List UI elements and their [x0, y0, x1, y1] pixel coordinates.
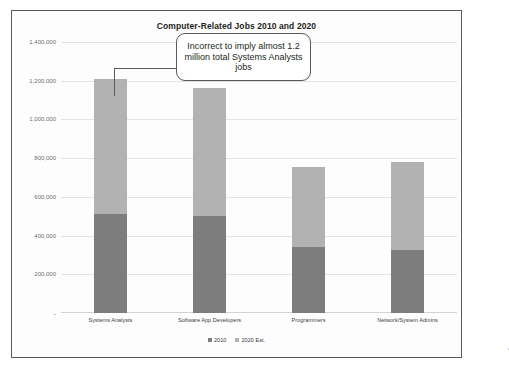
legend-label: 2010	[214, 337, 226, 343]
bar-segment-2020[interactable]	[391, 162, 424, 250]
bar-segment-2010[interactable]	[292, 247, 325, 313]
bar-group[interactable]	[292, 42, 325, 313]
bar-segment-2010[interactable]	[193, 216, 226, 313]
plot-area: 1,400,000 1,200,000 1,000,000 800,000 60…	[61, 42, 457, 313]
y-axis-tick-label: 200,000	[34, 271, 56, 277]
chart-title: Computer-Related Jobs 2010 and 2020	[12, 21, 461, 31]
bar-series-container	[61, 42, 457, 313]
annotation-text: Incorrect to imply almost 1.2 million to…	[183, 41, 304, 73]
bar-segment-2020[interactable]	[292, 167, 325, 247]
screenshot-root: Computer-Related Jobs 2010 and 2020 1,40…	[0, 0, 509, 368]
chart-legend: 2010 2020 Est.	[12, 337, 461, 343]
bar-segment-2010[interactable]	[94, 214, 127, 313]
y-axis-tick-label: 1,400,000	[29, 39, 56, 45]
bar-group[interactable]	[94, 42, 127, 313]
y-axis-tick-label: 1,000,000	[29, 116, 56, 122]
x-axis-label: Systems Analysts	[68, 317, 154, 323]
y-axis-tick-label: -	[54, 310, 56, 317]
x-axis-label: Network/System Admins	[365, 317, 451, 323]
legend-swatch-icon	[208, 338, 212, 342]
callout-leader-line-vertical	[114, 68, 115, 96]
y-axis-tick-label: 1,200,000	[29, 78, 56, 84]
bar-segment-2020[interactable]	[94, 79, 127, 214]
y-axis-tick-label: 800,000	[34, 155, 56, 161]
x-axis-labels: Systems Analysts Software App Developers…	[61, 317, 457, 323]
bar-segment-2020[interactable]	[193, 88, 226, 216]
annotation-callout: Incorrect to imply almost 1.2 million to…	[176, 33, 311, 81]
x-axis-label: Software App Developers	[167, 317, 253, 323]
y-axis-tick-label: 400,000	[34, 233, 56, 239]
y-axis-tick-label: 600,000	[34, 194, 56, 200]
bar-group[interactable]	[193, 42, 226, 313]
bar-group[interactable]	[391, 42, 424, 313]
x-axis-label: Programmers	[266, 317, 352, 323]
legend-item-2020[interactable]: 2020 Est.	[235, 337, 265, 343]
legend-label: 2020 Est.	[241, 337, 265, 343]
bar-segment-2010[interactable]	[391, 250, 424, 313]
legend-swatch-icon	[235, 338, 239, 342]
legend-item-2010[interactable]: 2010	[208, 337, 226, 343]
